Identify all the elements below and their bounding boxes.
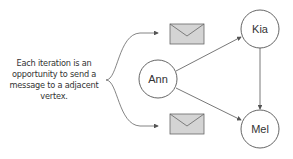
annotation-note: Each iteration is an opportunity to send… xyxy=(4,58,104,102)
envelope-icon xyxy=(170,24,204,44)
node-kia: Kia xyxy=(241,10,279,48)
node-ann: Ann xyxy=(139,60,177,98)
note-line: opportunity to send a xyxy=(4,69,104,80)
svg-text:Mel: Mel xyxy=(251,123,269,135)
envelope-icon xyxy=(170,114,204,134)
note-line: message to a adjacent xyxy=(4,80,104,91)
svg-text:Ann: Ann xyxy=(148,73,168,85)
svg-text:Kia: Kia xyxy=(252,23,269,35)
edges xyxy=(176,37,260,120)
node-mel: Mel xyxy=(241,110,279,148)
note-line: vertex. xyxy=(4,91,104,102)
note-line: Each iteration is an xyxy=(4,58,104,69)
